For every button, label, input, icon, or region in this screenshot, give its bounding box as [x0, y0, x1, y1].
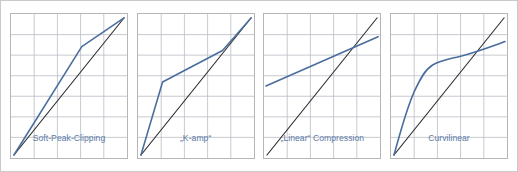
panel-label-curvilinear: Curvilinear	[391, 133, 507, 143]
compression-curves-figure: Soft-Peak-Clipping „K-amp“	[0, 0, 518, 172]
chart-panel-soft-peak-clipping: Soft-Peak-Clipping	[10, 13, 128, 159]
panel-label-k-amp: „K-amp“	[138, 133, 254, 143]
panel-label-linear-compression: „Linear“ Compression	[264, 133, 380, 143]
chart-panel-curvilinear: Curvilinear	[390, 13, 508, 159]
chart-panel-linear-compression: „Linear“ Compression	[263, 13, 381, 159]
chart-panel-k-amp: „K-amp“	[137, 13, 255, 159]
response-curve	[266, 37, 378, 86]
panel-label-soft-peak-clipping: Soft-Peak-Clipping	[11, 133, 127, 143]
